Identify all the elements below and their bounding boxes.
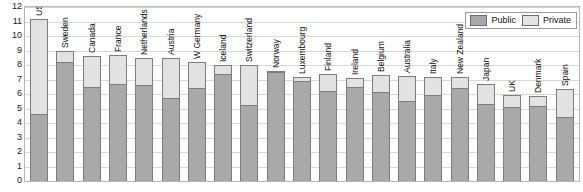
- stacked-bar[interactable]: [424, 77, 442, 181]
- bar-segment-public: [503, 107, 521, 181]
- stacked-bar[interactable]: [319, 74, 337, 181]
- bar-slot: Netherlands: [131, 7, 157, 181]
- bar-segment-private: [56, 51, 74, 63]
- y-axis-tick-label: 3: [17, 132, 22, 141]
- bar-category-label: Japan: [481, 58, 490, 81]
- stacked-bar[interactable]: [56, 51, 74, 181]
- stacked-bar[interactable]: [293, 77, 311, 181]
- bar-segment-private: [188, 62, 206, 88]
- bar-segment-private: [162, 58, 180, 97]
- bar-slot: Australia: [394, 7, 420, 181]
- bar-category-label: W Germany: [192, 14, 201, 59]
- y-axis-tick-label: 12: [12, 2, 22, 11]
- legend-label-private: Private: [543, 16, 571, 25]
- bar-segment-private: [346, 78, 364, 87]
- bar-segment-public: [293, 81, 311, 181]
- stacked-bar[interactable]: [188, 62, 206, 181]
- bar-category-label: France: [113, 25, 122, 51]
- legend-item-private[interactable]: Private: [522, 15, 571, 26]
- y-axis-tick-label: 4: [17, 118, 22, 127]
- bar-slot: France: [105, 7, 131, 181]
- y-axis-tick-label: 9: [17, 45, 22, 54]
- bar-category-label: Spain: [560, 64, 569, 86]
- bar-segment-private: [319, 74, 337, 91]
- bar-segment-private: [30, 19, 48, 115]
- bar-segment-private: [529, 96, 547, 106]
- bar-slot: Denmark: [525, 7, 551, 181]
- plot-area: USSwedenCanadaFranceNetherlandsAustriaW …: [24, 6, 580, 182]
- bar-segment-public: [240, 105, 258, 181]
- stacked-bar[interactable]: [477, 84, 495, 181]
- bar-slot: New Zealand: [447, 7, 473, 181]
- bar-slot: Finland: [315, 7, 341, 181]
- bar-category-label: US: [35, 6, 44, 16]
- bar-slot: Luxembourg: [289, 7, 315, 181]
- chart-legend: Public Private: [465, 12, 577, 29]
- stacked-bar[interactable]: [451, 77, 469, 181]
- bar-slot: Norway: [263, 7, 289, 181]
- bar-segment-private: [240, 65, 258, 105]
- stacked-bar[interactable]: [83, 56, 101, 181]
- bar-segment-private: [398, 76, 416, 101]
- bar-slot: Austria: [157, 7, 183, 181]
- y-axis-tick-label: 2: [17, 147, 22, 156]
- bar-segment-public: [83, 87, 101, 181]
- stacked-bar[interactable]: [267, 71, 285, 181]
- bar-category-label: Finland: [324, 43, 333, 71]
- bar-segment-public: [109, 84, 127, 181]
- bar-segment-public: [188, 88, 206, 181]
- stacked-bar[interactable]: [109, 55, 127, 181]
- bar-segment-private: [372, 75, 390, 92]
- bar-slot: UK: [499, 7, 525, 181]
- y-axis-tick-label: 8: [17, 60, 22, 69]
- stacked-bar[interactable]: [556, 89, 574, 181]
- stacked-bar[interactable]: [162, 58, 180, 181]
- bar-slot: Italy: [420, 7, 446, 181]
- bar-category-label: Norway: [271, 39, 280, 68]
- bar-category-label: Switzerland: [245, 18, 254, 62]
- bar-segment-public: [346, 87, 364, 181]
- stacked-bar[interactable]: [529, 96, 547, 181]
- y-axis-tick-label: 5: [17, 103, 22, 112]
- bar-segment-public: [529, 106, 547, 181]
- bar-segment-public: [372, 92, 390, 181]
- y-axis-tick-label: 1: [17, 161, 22, 170]
- public-swatch-icon: [470, 15, 487, 26]
- bar-segment-public: [56, 62, 74, 181]
- y-axis-tick-label: 7: [17, 74, 22, 83]
- bar-segment-public: [30, 114, 48, 181]
- bar-segment-private: [109, 55, 127, 84]
- bar-slot: Canada: [79, 7, 105, 181]
- stacked-bar[interactable]: [503, 95, 521, 181]
- stacked-bar[interactable]: [240, 65, 258, 181]
- bar-category-label: UK: [508, 80, 517, 92]
- bar-category-label: Australia: [403, 40, 412, 73]
- stacked-bar[interactable]: [214, 65, 232, 181]
- bar-segment-public: [398, 101, 416, 181]
- bar-slot: Spain: [552, 7, 578, 181]
- stacked-bar[interactable]: [346, 78, 364, 181]
- bar-segment-private: [214, 65, 232, 74]
- bar-segment-public: [477, 104, 495, 181]
- bar-slot: W Germany: [184, 7, 210, 181]
- stacked-bar[interactable]: [398, 76, 416, 181]
- bar-slot: Sweden: [52, 7, 78, 181]
- stacked-bar[interactable]: [372, 75, 390, 181]
- stacked-bar[interactable]: [135, 58, 153, 181]
- y-axis-tick-label: 6: [17, 89, 22, 98]
- bar-category-label: New Zealand: [455, 24, 464, 74]
- bar-category-label: Netherlands: [140, 9, 149, 55]
- legend-item-public[interactable]: Public: [470, 15, 516, 26]
- y-axis-tick-label: 0: [17, 176, 22, 185]
- bar-segment-public: [424, 95, 442, 181]
- stacked-bar-chart: 0123456789101112 USSwedenCanadaFranceNet…: [0, 0, 583, 192]
- bar-segment-public: [319, 91, 337, 181]
- bar-segment-private: [135, 58, 153, 85]
- bar-segment-private: [451, 77, 469, 89]
- y-axis-tick-label: 10: [12, 31, 22, 40]
- bar-segment-public: [556, 117, 574, 181]
- stacked-bar[interactable]: [30, 19, 48, 181]
- bar-category-label: Luxembourg: [297, 27, 306, 74]
- bar-segment-private: [477, 84, 495, 104]
- legend-label-public: Public: [491, 16, 516, 25]
